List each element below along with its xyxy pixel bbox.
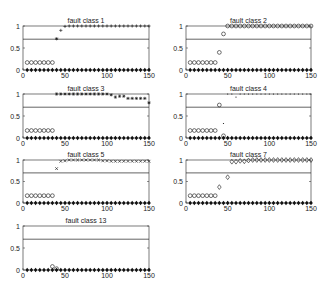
x-tick-label: 100 [101, 140, 113, 147]
series-fault [218, 158, 313, 190]
x-tick-label: 0 [184, 205, 188, 212]
x-tick-label: 150 [305, 205, 317, 212]
subplot-title: fault class 2 [230, 17, 267, 24]
subplot-fault-class-5: fault class 500.51050100150 [10, 151, 155, 212]
axes-box [23, 26, 149, 70]
series-pre-fault [25, 194, 54, 198]
y-tick-label: 0.5 [173, 178, 183, 185]
series-pre-fault [25, 129, 54, 133]
y-tick-label: 0.5 [10, 113, 20, 120]
x-tick-label: 100 [263, 72, 275, 79]
y-tick-label: 0 [179, 135, 183, 142]
subplot-title: fault class 5 [68, 151, 105, 158]
y-tick-label: 0.5 [10, 245, 20, 252]
y-tick-label: 0.5 [173, 113, 183, 120]
x-tick-label: 50 [61, 272, 69, 279]
subplot-fault-class-7: fault class 700.51050100150 [173, 151, 317, 212]
series-fault [59, 159, 150, 163]
y-tick-label: 1 [179, 91, 183, 98]
subplot-fault-class-4: fault class 400.51050100150 [173, 85, 317, 147]
subplot-fault-class-13: fault class 1300.51050100150 [10, 217, 155, 279]
series-pre-fault [188, 61, 217, 65]
y-tick-label: 0 [16, 135, 20, 142]
x-tick-label: 50 [224, 140, 232, 147]
y-tick-label: 1 [16, 91, 20, 98]
series-pre-fault [188, 103, 225, 138]
subplot-fault-class-1: fault class 100.51050100150 [10, 17, 155, 79]
figure-canvas: fault class 100.51050100150fault class 2… [0, 0, 325, 295]
x-tick-label: 50 [61, 140, 69, 147]
y-tick-label: 1 [16, 223, 20, 230]
y-tick-label: 0 [16, 267, 20, 274]
y-tick-label: 1 [179, 23, 183, 30]
x-tick-label: 50 [61, 72, 69, 79]
y-tick-label: 0 [16, 67, 20, 74]
y-tick-label: 1 [179, 157, 183, 164]
x-tick-label: 150 [143, 205, 155, 212]
y-tick-label: 0 [179, 200, 183, 207]
axes-box [186, 26, 311, 70]
x-tick-label: 0 [21, 140, 25, 147]
x-tick-label: 150 [143, 272, 155, 279]
x-tick-label: 0 [184, 72, 188, 79]
y-tick-label: 0.5 [10, 178, 20, 185]
y-tick-label: 0.5 [173, 45, 183, 52]
subplot-title: fault class 3 [68, 85, 105, 92]
y-tick-label: 0.5 [10, 45, 20, 52]
axes-box [23, 160, 149, 203]
subplot-title: fault class 1 [68, 17, 105, 24]
x-tick-label: 150 [143, 72, 155, 79]
y-tick-label: 1 [16, 157, 20, 164]
axes-box [186, 94, 311, 138]
x-tick-label: 100 [101, 205, 113, 212]
series-transition [55, 37, 58, 40]
subplot-fault-class-3: fault class 300.51050100150 [10, 85, 155, 147]
series-pre-fault [188, 194, 217, 198]
subplot-title: fault class 4 [230, 85, 267, 92]
x-tick-label: 0 [21, 205, 25, 212]
series-fault [59, 24, 150, 32]
x-tick-label: 150 [305, 72, 317, 79]
x-tick-label: 50 [224, 205, 232, 212]
x-tick-label: 100 [263, 140, 275, 147]
x-tick-label: 0 [21, 72, 25, 79]
y-tick-label: 0 [179, 67, 183, 74]
subplot-title: fault class 7 [230, 151, 267, 158]
x-tick-label: 150 [305, 140, 317, 147]
y-tick-label: 1 [16, 23, 20, 30]
x-tick-label: 100 [101, 272, 113, 279]
axes-box [23, 226, 149, 270]
x-tick-label: 0 [184, 140, 188, 147]
subplot-fault-class-2: fault class 200.51050100150 [173, 17, 317, 79]
subplot-title: fault class 13 [66, 217, 107, 224]
axes-box [23, 94, 149, 138]
series-transition [55, 167, 58, 170]
series-fault [223, 93, 312, 124]
y-tick-label: 0 [16, 200, 20, 207]
x-tick-label: 100 [263, 205, 275, 212]
series-pre-fault [25, 61, 54, 65]
x-tick-label: 50 [61, 205, 69, 212]
x-tick-label: 0 [21, 272, 25, 279]
x-tick-label: 150 [143, 140, 155, 147]
x-tick-label: 50 [224, 72, 232, 79]
x-tick-label: 100 [101, 72, 113, 79]
axes-box [186, 160, 311, 203]
